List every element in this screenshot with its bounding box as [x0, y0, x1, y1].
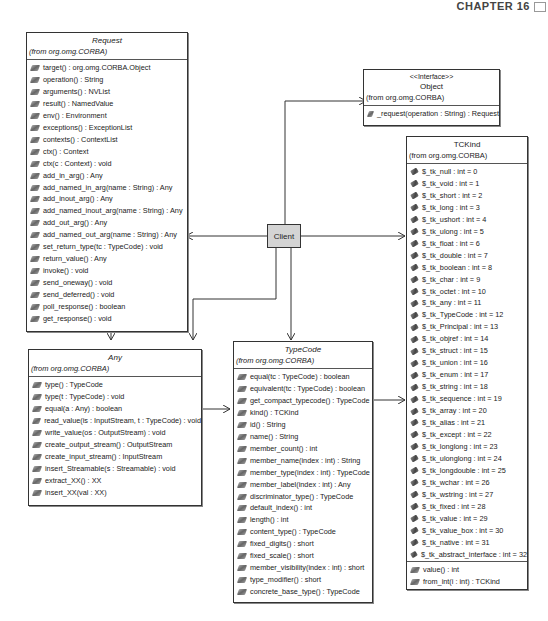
attribute-icon [410, 240, 419, 248]
method-icon [30, 196, 40, 202]
method-icon [32, 454, 42, 460]
attribute-icon [410, 335, 419, 343]
class-package: (from org.omg.CORBA) [407, 150, 527, 164]
stereotype-label: <<Interface>> [364, 70, 499, 81]
attribute-icon [410, 311, 419, 319]
operation: ctx() : Context [27, 146, 187, 158]
operation: get_compact_typecode() : TypeCode [234, 395, 372, 407]
class-typecode[interactable]: TypeCode (from org.omg.CORBA) equal(tc :… [233, 341, 373, 603]
attribute-icon [410, 539, 419, 547]
method-icon [32, 382, 42, 388]
attribute: $_tk_enum : int = 17 [407, 369, 527, 381]
attribute-icon [410, 371, 419, 379]
operation: value() : int [407, 564, 527, 576]
method-icon [237, 494, 247, 500]
operation: equal(tc : TypeCode) : boolean [234, 371, 372, 383]
method-icon [237, 505, 247, 511]
operation: length() : int [234, 514, 372, 526]
method-icon [32, 466, 42, 472]
attribute: $_tk_sequence : int = 19 [407, 393, 527, 405]
attribute: $_tk_double : int = 7 [407, 250, 527, 262]
attribute: $_tk_wstring : int = 27 [407, 489, 527, 501]
method-icon [237, 446, 247, 452]
class-tckind[interactable]: TCKind (from org.omg.CORBA) $_tk_null : … [406, 136, 528, 590]
class-package: (from org.omg.CORBA) [234, 355, 372, 369]
attribute: $_tk_native : int = 31 [407, 537, 527, 549]
method-icon [32, 418, 41, 424]
attribute: $_tk_any : int = 11 [407, 297, 527, 309]
attribute-icon [410, 407, 419, 415]
class-any[interactable]: Any (from org.omg.CORBA) type() : TypeCo… [28, 349, 202, 506]
attribute-icon [410, 455, 419, 463]
method-icon [30, 208, 40, 214]
attribute: $_tk_char : int = 9 [407, 274, 527, 286]
attribute: $_tk_union : int = 16 [407, 357, 527, 369]
method-icon [237, 589, 247, 595]
attribute: $_tk_short : int = 2 [407, 190, 527, 202]
method-icon [30, 77, 40, 83]
method-icon [30, 244, 40, 250]
attribute-icon [410, 168, 419, 176]
method-icon [237, 470, 247, 476]
attribute: $_tk_except : int = 22 [407, 429, 527, 441]
method-icon [237, 386, 247, 392]
method-icon [30, 137, 40, 143]
attribute-icon [410, 515, 419, 523]
attribute: $_tk_objref : int = 14 [407, 333, 527, 345]
method-icon [237, 422, 247, 428]
operation: kind() : TCKind [234, 407, 372, 419]
operation: send_oneway() : void [27, 277, 187, 289]
method-icon [237, 553, 247, 559]
method-icon [237, 398, 247, 404]
operation: add_named_out_arg(name : String) : Any [27, 229, 187, 241]
operation: ctx(c : Context) : void [27, 158, 187, 170]
operations-list: target() : org.omg.CORBA.Object operatio… [27, 60, 187, 326]
operations-list: _request(operation : String) : Request [364, 106, 499, 121]
class-object-interface[interactable]: <<Interface>> Object (from org.omg.CORBA… [363, 69, 500, 126]
attribute-icon [410, 276, 419, 284]
client-label: Client [274, 232, 294, 241]
attribute: $_tk_null : int = 0 [407, 166, 527, 178]
operation: member_label(index : int) : Any [234, 479, 372, 491]
class-package: (from org.omg.CORBA) [29, 363, 201, 377]
attribute-icon [410, 264, 419, 272]
method-icon [30, 256, 40, 262]
class-title: Any [29, 350, 201, 363]
operation: type_modifier() : short [234, 574, 372, 586]
method-icon [367, 111, 374, 117]
method-icon [237, 565, 247, 571]
operation: default_index() : int [234, 502, 372, 514]
attribute: $_tk_octet : int = 10 [407, 286, 527, 298]
method-icon [237, 374, 247, 380]
operation: send_deferred() : void [27, 289, 187, 301]
operation: target() : org.omg.CORBA.Object [27, 62, 187, 74]
method-icon [32, 394, 42, 400]
method-icon [30, 232, 40, 238]
operation: member_visibility(index : int) : short [234, 562, 372, 574]
operation: member_name(index : int) : String [234, 455, 372, 467]
method-icon [30, 220, 40, 226]
attribute: $_tk_alias : int = 21 [407, 417, 527, 429]
attribute-icon [410, 395, 419, 403]
method-icon [237, 410, 247, 416]
attribute-icon [410, 216, 419, 224]
attribute-icon [410, 383, 419, 391]
attribute: $_tk_ushort : int = 4 [407, 214, 527, 226]
method-icon [30, 161, 40, 167]
operation: fixed_scale() : short [234, 550, 372, 562]
operation: write_value(os : OutputStream) : void [29, 427, 201, 439]
attribute-icon [410, 503, 419, 511]
method-icon [30, 280, 40, 286]
operation: fixed_digits() : short [234, 538, 372, 550]
attribute-icon [410, 479, 419, 487]
operation: from_int(i : int) : TCKind [407, 576, 527, 588]
client-box[interactable]: Client [267, 224, 301, 248]
attribute: $_tk_Principal : int = 13 [407, 321, 527, 333]
attribute: $_tk_array : int = 20 [407, 405, 527, 417]
class-request[interactable]: Request (from org.omg.CORBA) target() : … [26, 32, 188, 332]
operation: name() : String [234, 431, 372, 443]
attribute-icon [410, 359, 419, 367]
method-icon [237, 529, 247, 535]
method-icon [410, 567, 420, 573]
method-icon [32, 406, 42, 412]
